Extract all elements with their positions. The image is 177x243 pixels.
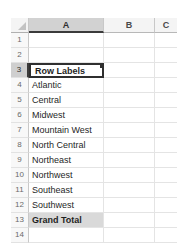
row-header-14[interactable]: 14 [11,228,29,243]
cell-c6[interactable] [155,108,177,123]
cell-c9[interactable] [155,153,177,168]
row-header-5[interactable]: 5 [11,93,29,108]
row-header-11[interactable]: 11 [11,183,29,198]
cell-b12[interactable] [104,198,155,213]
select-all-button[interactable] [11,18,29,33]
cell-c4[interactable] [155,78,177,93]
cell-b5[interactable] [104,93,155,108]
cell-grand-total[interactable]: Grand Total [29,213,104,228]
cell-b4[interactable] [104,78,155,93]
column-header-c[interactable]: C [155,18,177,33]
cell-c2[interactable] [155,48,177,63]
cell-c14[interactable] [155,228,177,243]
row-header-7[interactable]: 7 [11,123,29,138]
cell-a14[interactable] [29,228,104,243]
cell-a12[interactable]: Southwest [29,198,104,213]
cell-b14[interactable] [104,228,155,243]
row-header-2[interactable]: 2 [11,48,29,63]
cell-a7[interactable]: Mountain West [29,123,104,138]
cell-b6[interactable] [104,108,155,123]
cell-a6[interactable]: Midwest [29,108,104,123]
cell-b13[interactable] [104,213,155,228]
row-header-4[interactable]: 4 [11,78,29,93]
cell-c5[interactable] [155,93,177,108]
cell-a2[interactable] [29,48,104,63]
cell-b3[interactable] [104,63,155,78]
cell-a11[interactable]: Southeast [29,183,104,198]
fill-handle[interactable] [100,64,104,68]
cell-b8[interactable] [104,138,155,153]
cell-c3[interactable] [155,63,177,78]
cell-b1[interactable] [104,33,155,48]
row-header-8[interactable]: 8 [11,138,29,153]
cell-a1[interactable] [29,33,104,48]
cell-c13[interactable] [155,213,177,228]
row-header-6[interactable]: 6 [11,108,29,123]
row-header-1[interactable]: 1 [11,33,29,48]
column-header-a[interactable]: A [29,18,104,33]
row-header-13[interactable]: 13 [11,213,29,228]
cell-a10[interactable]: Northwest [29,168,104,183]
cell-c8[interactable] [155,138,177,153]
cell-b9[interactable] [104,153,155,168]
cell-c12[interactable] [155,198,177,213]
cell-c10[interactable] [155,168,177,183]
row-header-12[interactable]: 12 [11,198,29,213]
cell-c1[interactable] [155,33,177,48]
cell-b11[interactable] [104,183,155,198]
cell-c11[interactable] [155,183,177,198]
column-header-b[interactable]: B [104,18,155,33]
row-header-10[interactable]: 10 [11,168,29,183]
cell-a3-row-labels[interactable]: Row Labels [29,63,104,78]
cell-a5[interactable]: Central [29,93,104,108]
cell-b7[interactable] [104,123,155,138]
cell-c7[interactable] [155,123,177,138]
cell-b2[interactable] [104,48,155,63]
row-header-3[interactable]: 3 [11,63,29,78]
cell-a9[interactable]: Northeast [29,153,104,168]
cell-a8[interactable]: North Central [29,138,104,153]
row-header-9[interactable]: 9 [11,153,29,168]
cell-a4[interactable]: Atlantic [29,78,104,93]
select-all-triangle-icon [18,22,26,30]
cell-b10[interactable] [104,168,155,183]
